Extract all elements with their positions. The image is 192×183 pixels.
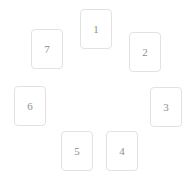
card-label: 6 — [27, 101, 33, 112]
card-label: 4 — [119, 146, 125, 157]
card-label: 3 — [163, 102, 169, 113]
card-circle-layout: 1 2 3 4 5 6 7 — [0, 0, 192, 183]
card-label: 2 — [142, 47, 148, 58]
card-7[interactable]: 7 — [31, 29, 63, 69]
card-4[interactable]: 4 — [106, 131, 138, 171]
card-5[interactable]: 5 — [61, 131, 93, 171]
card-label: 5 — [74, 146, 80, 157]
card-6[interactable]: 6 — [14, 86, 46, 126]
card-label: 1 — [93, 24, 99, 35]
card-label: 7 — [44, 44, 50, 55]
card-1[interactable]: 1 — [80, 9, 112, 49]
card-3[interactable]: 3 — [150, 87, 182, 127]
card-2[interactable]: 2 — [129, 32, 161, 72]
